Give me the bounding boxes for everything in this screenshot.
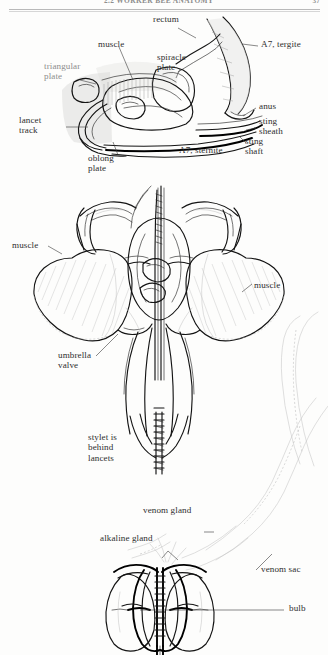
label-bulb: bulb: [289, 603, 306, 613]
header-rule: [9, 9, 320, 10]
label-venom-sac: venom sac: [261, 564, 301, 574]
figure-venom-apparatus: venom gland alkaline gland venom sac bul…: [0, 420, 328, 655]
label-muscle: muscle: [98, 39, 124, 49]
label-oblong-plate: oblong plate: [88, 153, 114, 174]
scanned-page: 2.2 WORKER BEE ANATOMY 37: [0, 0, 328, 655]
label-rectum: rectum: [153, 14, 179, 24]
running-head: 2.2 WORKER BEE ANATOMY 37: [0, 0, 328, 9]
label-lancet-track: lancet track: [19, 115, 41, 136]
label-venom-gland: venom gland: [143, 505, 191, 515]
label-muscle-right: muscle: [254, 280, 280, 290]
label-triangular-plate: triangular plate: [44, 61, 80, 82]
label-sting-shaft: sting shaft: [245, 136, 263, 157]
label-alkaline-gland: alkaline gland: [100, 533, 153, 543]
label-a7-tergite: A7, tergite: [261, 39, 301, 49]
running-head-title: 2.2 WORKER BEE ANATOMY: [104, 0, 214, 5]
page-number: 37: [313, 0, 320, 5]
label-muscle-left: muscle: [12, 240, 38, 250]
label-a7-sternite: A7, sternite: [179, 145, 223, 155]
label-spiracle-plate: spiracle plate: [157, 52, 186, 73]
label-sting-sheath: sting sheath: [259, 116, 283, 137]
figure-lateral-sting-chamber: rectum A7, tergite muscle spiracle plate…: [0, 12, 328, 167]
label-anus: anus: [259, 101, 276, 111]
label-umbrella-valve: umbrella valve: [58, 350, 91, 371]
label-stylet-note: stylet is behind lancets: [88, 432, 117, 463]
